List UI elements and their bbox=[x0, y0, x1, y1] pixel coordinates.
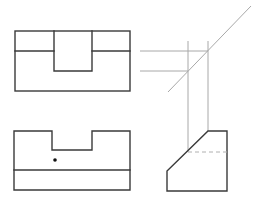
top-view bbox=[14, 131, 130, 190]
projection-lines bbox=[140, 6, 251, 152]
front-view-slot bbox=[54, 31, 92, 71]
top-view-outline bbox=[14, 131, 130, 190]
point-marker bbox=[53, 158, 57, 162]
side-view bbox=[167, 131, 227, 191]
front-view-outline bbox=[15, 31, 130, 91]
miter-line bbox=[168, 6, 251, 92]
orthographic-drawing bbox=[0, 0, 260, 200]
front-view bbox=[15, 31, 130, 91]
side-view-outline bbox=[167, 131, 227, 191]
